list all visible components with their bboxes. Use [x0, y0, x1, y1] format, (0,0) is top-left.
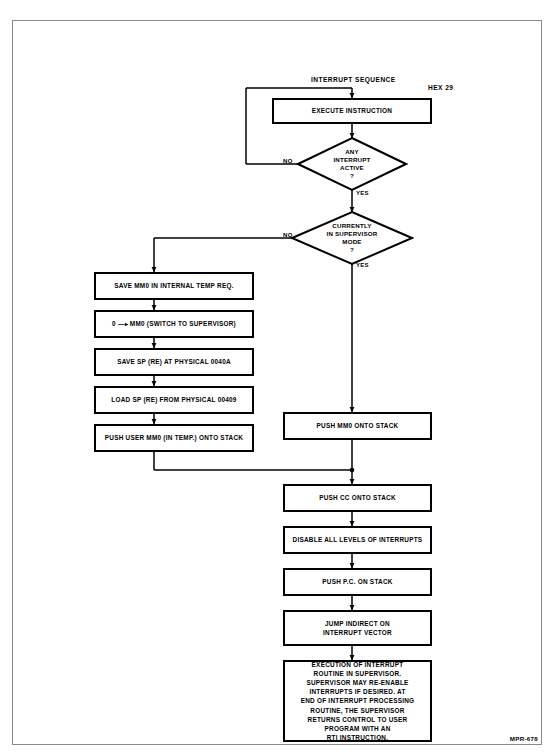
node-jump-indirect-on-interrupt-vector-text: JUMP INDIRECT ON INTERRUPT VECTOR — [323, 619, 392, 637]
node-push-user-mm0-text: PUSH USER MM0 (IN TEMP.) ONTO STACK — [105, 434, 243, 442]
node-push-cc-onto-stack-text: PUSH CC ONTO STACK — [319, 494, 396, 502]
decision-diamond-shape — [296, 136, 408, 192]
edge-label-any-interrupt-no: NO — [283, 158, 293, 164]
chart-title: INTERRUPT SEQUENCE — [311, 76, 396, 83]
node-save-sp-text: SAVE SP (RE) AT PHYSICAL 0040A — [117, 358, 231, 366]
node-push-pc-on-stack-text: PUSH P.C. ON STACK — [322, 578, 392, 586]
node-push-mm0-onto-stack-text: PUSH MM0 ONTO STACK — [317, 422, 399, 430]
node-push-cc-onto-stack[interactable]: PUSH CC ONTO STACK — [283, 484, 432, 512]
node-push-mm0-onto-stack[interactable]: PUSH MM0 ONTO STACK — [283, 412, 432, 440]
node-execution-of-interrupt-routine-text: EXECUTION OF INTERRUPT ROUTINE IN SUPERV… — [301, 660, 415, 742]
node-execute-instruction-text: EXECUTE INSTRUCTION — [312, 107, 392, 115]
node-disable-all-levels-of-interrupts[interactable]: DISABLE ALL LEVELS OF INTERRUPTS — [283, 526, 432, 554]
node-load-sp[interactable]: LOAD SP (RE) FROM PHYSICAL 00409 — [94, 386, 254, 414]
node-save-mm0-internal-temp[interactable]: SAVE MM0 IN INTERNAL TEMP REQ. — [94, 272, 254, 300]
node-any-interrupt-active[interactable]: ANY INTERRUPT ACTIVE ? — [296, 136, 408, 192]
plate-code-label: MPR-678 — [510, 735, 538, 742]
flowchart-page: INTERRUPT SEQUENCE HEX 29 NO YES NO YES … — [0, 0, 554, 756]
figure-code-label: HEX 29 — [428, 84, 453, 91]
node-push-pc-on-stack[interactable]: PUSH P.C. ON STACK — [283, 568, 432, 596]
node-disable-all-levels-of-interrupts-text: DISABLE ALL LEVELS OF INTERRUPTS — [293, 536, 423, 544]
node-save-mm0-internal-temp-text: SAVE MM0 IN INTERNAL TEMP REQ. — [114, 282, 233, 290]
node-execution-of-interrupt-routine[interactable]: EXECUTION OF INTERRUPT ROUTINE IN SUPERV… — [283, 660, 432, 742]
node-execute-instruction[interactable]: EXECUTE INSTRUCTION — [272, 98, 432, 124]
node-load-sp-text: LOAD SP (RE) FROM PHYSICAL 00409 — [111, 396, 236, 404]
decision-diamond-shape — [290, 210, 414, 266]
node-save-sp[interactable]: SAVE SP (RE) AT PHYSICAL 0040A — [94, 348, 254, 376]
node-zero-to-mm0-text: 0 —▸ MM0 (SWITCH TO SUPERVISOR) — [112, 320, 236, 328]
node-push-user-mm0[interactable]: PUSH USER MM0 (IN TEMP.) ONTO STACK — [94, 424, 254, 452]
node-jump-indirect-on-interrupt-vector[interactable]: JUMP INDIRECT ON INTERRUPT VECTOR — [283, 610, 432, 646]
node-currently-in-supervisor-mode[interactable]: CURRENTLY IN SUPERVISOR MODE ? — [290, 210, 414, 266]
node-zero-to-mm0[interactable]: 0 —▸ MM0 (SWITCH TO SUPERVISOR) — [94, 310, 254, 338]
